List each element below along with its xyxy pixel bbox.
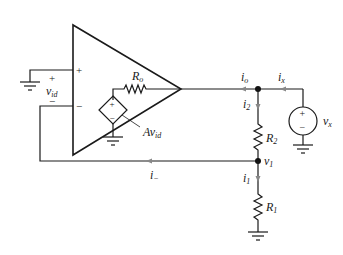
i-minus-label: i−: [150, 168, 159, 183]
r1-resistor: [254, 161, 262, 232]
i1-arrow: [256, 176, 261, 182]
ix-arrow: [280, 87, 286, 92]
i-minus-arrow: [146, 159, 152, 164]
r2-resistor: [254, 89, 262, 161]
io-label: io: [241, 70, 248, 85]
r2-label: R2: [265, 131, 277, 146]
r1-label: R1: [265, 200, 277, 215]
i2-label: i2: [243, 97, 250, 112]
dep-source-label: Avid: [142, 125, 162, 140]
v1-label: v1: [264, 154, 273, 169]
inverting-input-sign: −: [76, 100, 82, 112]
vx-label: vx: [323, 114, 332, 129]
ro-resistor: [113, 85, 181, 100]
vid-minus-sign: −: [49, 95, 55, 107]
op-amp-triangle: [73, 25, 181, 155]
circuit-diagram: + − + vid − i− Ro + − Avid io ix + −: [0, 0, 343, 255]
ix-label: ix: [278, 70, 285, 85]
dep-source-plus: +: [110, 99, 115, 109]
ground-icon: [248, 232, 268, 240]
ground-icon: [293, 145, 313, 153]
vid-plus-sign: +: [49, 72, 55, 84]
i2-arrow: [256, 104, 261, 110]
noninverting-input-sign: +: [76, 64, 82, 76]
ground-icon: [103, 137, 123, 145]
ro-label: Ro: [131, 69, 143, 84]
ground-icon: [20, 82, 40, 90]
vx-minus-sign: −: [300, 122, 306, 133]
io-arrow: [240, 87, 246, 92]
vx-plus-sign: +: [300, 108, 306, 119]
dep-source-pointer: [122, 115, 140, 127]
dep-source-minus: −: [110, 113, 115, 123]
i1-label: i1: [243, 171, 250, 186]
